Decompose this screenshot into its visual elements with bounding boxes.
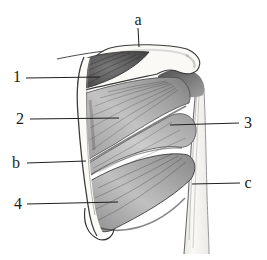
label-2: 2 [16, 111, 24, 127]
label-3: 3 [244, 115, 252, 131]
label-1: 1 [13, 69, 21, 85]
anatomical-figure: a 1 2 3 b 4 c [0, 0, 267, 260]
label-b: b [12, 155, 20, 171]
label-4: 4 [14, 196, 22, 212]
leader-line-b [27, 161, 86, 163]
label-c: c [244, 175, 251, 191]
label-a: a [134, 12, 141, 28]
shoulder-illustration [0, 0, 267, 260]
leader-line-a [138, 28, 139, 47]
